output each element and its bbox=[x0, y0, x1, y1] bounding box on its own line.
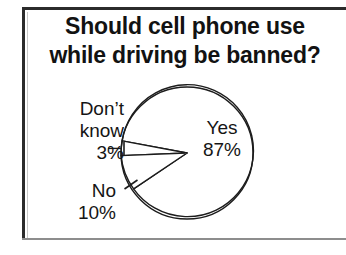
pie-label-dontknow-value: 3% bbox=[36, 142, 124, 164]
pie-label-dontknow-line-2: know bbox=[36, 120, 124, 142]
pie-chart-figure: Should cell phone use while driving be b… bbox=[0, 0, 346, 255]
pie-label-dontknow-line-1: Don’t bbox=[36, 98, 124, 120]
pie-label-yes-value: 87% bbox=[190, 139, 254, 161]
pie-label-no: No 10% bbox=[52, 180, 116, 224]
pie-label-no-value: 10% bbox=[52, 202, 116, 224]
pie-label-yes-name: Yes bbox=[190, 117, 254, 139]
pie-label-dontknow: Don’t know 3% bbox=[36, 98, 124, 164]
pie-label-no-name: No bbox=[52, 180, 116, 202]
pie-label-yes: Yes 87% bbox=[190, 117, 254, 161]
